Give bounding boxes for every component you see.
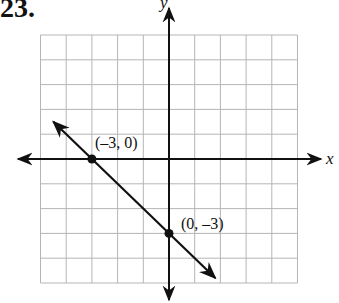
y-axis-label: y	[158, 0, 168, 12]
data-point	[87, 155, 96, 164]
point-label-1: (–3, 0)	[95, 134, 138, 152]
point-label-2: (0, –3)	[181, 215, 224, 233]
x-axis-label: x	[325, 149, 334, 168]
data-point	[165, 229, 174, 238]
coordinate-plane: x y (–3, 0) (0, –3)	[0, 0, 339, 303]
